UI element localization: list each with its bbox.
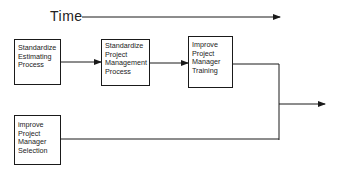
node-standardize-estimating-process: Standardize Estimating Process: [14, 39, 61, 85]
node-line: Selection: [18, 147, 58, 156]
node-line: Training: [192, 67, 230, 76]
node-standardize-pm-process: Standardize Project Management Process: [101, 39, 150, 86]
node-improve-pm-selection: improve Project Manager Selection: [14, 115, 61, 165]
time-axis-label: Time: [50, 8, 83, 24]
node-line: Process: [18, 61, 58, 70]
node-improve-pm-training: Improve Project Manager Training: [188, 36, 233, 88]
edge-training-to-merge: [233, 64, 279, 140]
node-line: Process: [105, 68, 147, 77]
